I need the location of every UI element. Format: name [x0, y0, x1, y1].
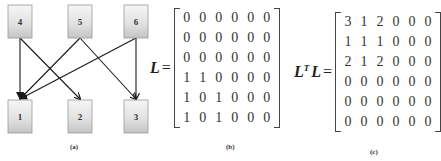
matrix-cell: 0 [340, 74, 356, 90]
matrix-cell: 0 [356, 74, 372, 90]
matrix-symbol-l: L [311, 63, 321, 80]
node-label: 5 [78, 17, 83, 27]
matrix-cell: 0 [259, 10, 275, 26]
matrix-cell: 0 [243, 50, 259, 66]
matrix-cell: 0 [420, 54, 436, 70]
matrix-cell: 0 [243, 90, 259, 106]
matrix-cell: 0 [195, 90, 211, 106]
matrix-symbol-l: L [150, 59, 160, 76]
matrix-l-equation: L= 000000000000000000110000101000101000 [150, 8, 280, 128]
matrix-cell: 0 [259, 90, 275, 106]
matrix-cell: 0 [227, 70, 243, 86]
edge-arrow-6-to-1 [20, 38, 136, 99]
transpose-superscript: T [304, 63, 310, 73]
node-label: 1 [18, 112, 23, 122]
matrix-cell: 0 [372, 114, 388, 130]
equals-sign: = [162, 59, 171, 76]
matrix-cell: 0 [195, 50, 211, 66]
caption-a: (a) [70, 143, 78, 151]
matrix-cell: 0 [227, 50, 243, 66]
matrix-cell: 0 [227, 10, 243, 26]
matrix-row: 000000 [179, 28, 275, 48]
matrix-cell: 0 [227, 110, 243, 126]
matrix-row: 000000 [179, 48, 275, 68]
caption-b: (b) [226, 143, 235, 151]
matrix-row: 000000 [340, 112, 436, 132]
matrix-cell: 0 [179, 30, 195, 46]
matrix-cell: 0 [259, 70, 275, 86]
matrix-cell: 0 [420, 14, 436, 30]
matrix-cell: 2 [340, 54, 356, 70]
matrix-cell: 0 [388, 34, 404, 50]
graph-panel: 456123 (a) [0, 0, 150, 161]
matrix-cell: 1 [195, 70, 211, 86]
graph-node-1: 1 [8, 100, 32, 133]
matrix-row: 111000 [340, 32, 436, 52]
matrix-ltl-panel: LTL= 31200011100021200000000000000000000… [290, 0, 435, 161]
matrix-cell: 0 [420, 74, 436, 90]
matrix-cell: 0 [227, 30, 243, 46]
matrix-cell: 0 [211, 30, 227, 46]
matrix-row: 000000 [340, 72, 436, 92]
matrix-row: 212000 [340, 52, 436, 72]
matrix-cell: 0 [211, 70, 227, 86]
matrix-cell: 0 [388, 54, 404, 70]
matrix-cell: 1 [179, 70, 195, 86]
matrix-ltl-equation: LTL= 31200011100021200000000000000000000… [294, 12, 441, 132]
matrix-cell: 0 [340, 114, 356, 130]
matrix-row: 110000 [179, 68, 275, 88]
matrix-cell: 0 [388, 74, 404, 90]
matrix-cell: 0 [243, 70, 259, 86]
matrix-cell: 0 [420, 94, 436, 110]
matrix-cell: 0 [388, 14, 404, 30]
matrix-cell: 0 [356, 114, 372, 130]
node-label: 6 [134, 17, 139, 27]
matrix-cell: 0 [404, 14, 420, 30]
matrix-cell: 2 [372, 54, 388, 70]
matrix-ltl: 312000111000212000000000000000000000 [335, 12, 441, 132]
node-label: 2 [78, 112, 83, 122]
matrix-cell: 0 [211, 50, 227, 66]
matrix-cell: 1 [372, 34, 388, 50]
matrix-cell: 0 [388, 114, 404, 130]
matrix-cell: 0 [243, 10, 259, 26]
matrix-cell: 0 [404, 74, 420, 90]
graph-edges [20, 38, 136, 99]
matrix-cell: 0 [243, 110, 259, 126]
graph-node-6: 6 [124, 5, 148, 38]
caption-c: (c) [370, 148, 378, 156]
matrix-cell: 0 [388, 94, 404, 110]
matrix-cell: 3 [340, 14, 356, 30]
matrix-row: 000000 [340, 92, 436, 112]
matrix-row: 101000 [179, 108, 275, 128]
matrix-cell: 0 [404, 54, 420, 70]
matrix-cell: 0 [259, 110, 275, 126]
matrix-symbol-l: L [294, 63, 304, 80]
matrix-cell: 0 [195, 30, 211, 46]
matrix-cell: 1 [179, 110, 195, 126]
matrix-cell: 0 [243, 30, 259, 46]
edge-arrow-5-to-3 [80, 38, 136, 99]
matrix-cell: 2 [372, 14, 388, 30]
matrix-ltl-label: LTL= [294, 63, 332, 81]
matrix-cell: 0 [356, 94, 372, 110]
graph-node-3: 3 [124, 100, 148, 133]
matrix-cell: 0 [372, 74, 388, 90]
matrix-cell: 0 [211, 10, 227, 26]
node-label: 3 [134, 112, 139, 122]
matrix-cell: 1 [356, 34, 372, 50]
matrix-l: 000000000000000000110000101000101000 [174, 8, 280, 128]
matrix-cell: 0 [195, 110, 211, 126]
matrix-row: 312000 [340, 12, 436, 32]
matrix-l-label: L= [150, 59, 171, 77]
matrix-cell: 0 [420, 114, 436, 130]
matrix-cell: 1 [356, 54, 372, 70]
matrix-cell: 0 [259, 30, 275, 46]
matrix-cell: 0 [420, 34, 436, 50]
matrix-cell: 0 [404, 114, 420, 130]
matrix-cell: 1 [356, 14, 372, 30]
matrix-cell: 0 [340, 94, 356, 110]
matrix-row: 101000 [179, 88, 275, 108]
matrix-cell: 1 [211, 110, 227, 126]
matrix-l-panel: L= 000000000000000000110000101000101000 … [150, 0, 290, 161]
